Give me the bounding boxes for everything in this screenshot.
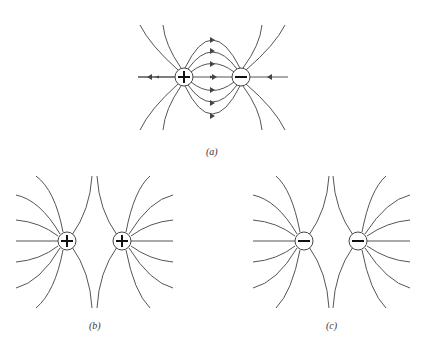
charges xyxy=(58,68,367,250)
panel-b-field-lines xyxy=(16,176,173,308)
panel-a-label: (a) xyxy=(206,146,218,157)
panel-a-arrows xyxy=(147,37,272,119)
panel-c-field-lines xyxy=(253,176,410,308)
charge-signs xyxy=(61,71,364,247)
panel-b-label: (b) xyxy=(89,320,101,331)
electric-field-diagram xyxy=(0,0,426,348)
panel-c-label: (c) xyxy=(326,320,337,331)
